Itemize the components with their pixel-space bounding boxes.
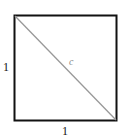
bottom-side-label: 1 [62,125,68,137]
diagonal-line [15,16,116,120]
square-figure [0,0,125,137]
left-side-label: 1 [3,61,9,73]
diagram-canvas: 1 1 c [0,0,125,137]
diagonal-label: c [69,56,73,68]
